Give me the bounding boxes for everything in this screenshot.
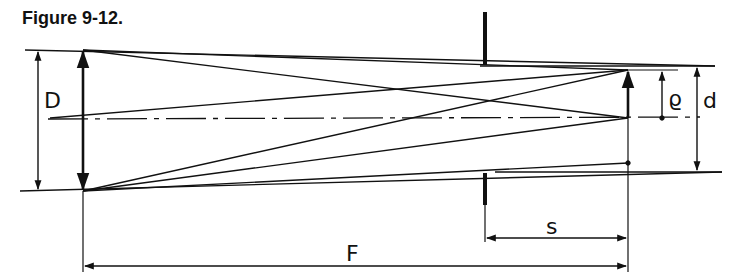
optical-axis xyxy=(48,117,700,119)
label-d: d xyxy=(703,88,717,113)
label-s: s xyxy=(546,214,557,239)
label-rho: ϱ xyxy=(668,86,682,111)
label-D: D xyxy=(44,88,61,113)
label-F: F xyxy=(346,241,359,266)
optical-diagram: D ϱ d s F xyxy=(0,0,745,274)
top-aperture-line xyxy=(25,50,715,66)
